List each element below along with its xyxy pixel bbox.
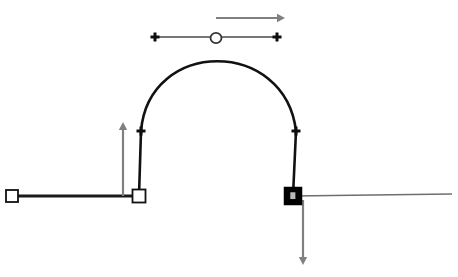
start-anchor[interactable]	[6, 190, 18, 202]
right-segment-tangent-handle-bar-v	[295, 127, 298, 136]
apex-right-tangent-handle-bar-v	[276, 33, 279, 42]
vector-path-svg[interactable]	[0, 0, 458, 277]
apex-left-tangent-handle-bar-v	[154, 33, 157, 42]
right-corner-anchor-selected[interactable]	[285, 188, 302, 205]
apex-anchor[interactable]	[211, 33, 222, 43]
path-editor-canvas[interactable]: Bezier path editing canvas Vector path w…	[0, 0, 458, 277]
left-corner-anchor-square	[133, 190, 146, 203]
apex-anchor-circle	[211, 33, 222, 43]
start-anchor-square	[6, 190, 18, 202]
right-corner-anchor-selected-inner-marker	[290, 192, 295, 199]
left-corner-anchor[interactable]	[133, 190, 146, 203]
canvas-background	[0, 0, 458, 277]
left-segment-tangent-handle-bar-v	[140, 127, 143, 136]
